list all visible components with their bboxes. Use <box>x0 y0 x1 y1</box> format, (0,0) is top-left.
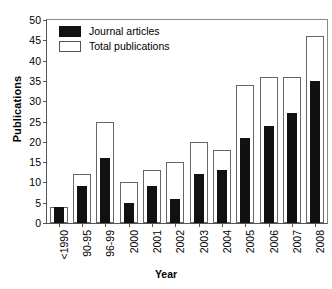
bar-journal-articles <box>147 186 157 223</box>
x-axis-tick-mark <box>175 223 176 227</box>
x-axis-tick-mark <box>152 223 153 227</box>
bar-journal-articles <box>54 207 64 223</box>
y-axis-tick-label: 50 <box>29 15 47 26</box>
y-axis-tick-label: 30 <box>29 96 47 107</box>
x-axis-tick-mark <box>129 223 130 227</box>
bar-journal-articles <box>287 113 297 223</box>
x-axis-tick-label: <1990 <box>59 230 70 260</box>
x-axis-tick-label: 2003 <box>199 230 210 253</box>
chart-legend: Journal articles Total publications <box>59 25 170 52</box>
legend-item-journal-articles: Journal articles <box>59 25 170 37</box>
y-axis-tick-label: 15 <box>29 157 47 168</box>
x-axis-tick-label: 2006 <box>269 230 280 253</box>
y-axis-tick-label: 40 <box>29 55 47 66</box>
publications-bar-chart: Publications Year 05101520253035404550 <… <box>0 0 332 289</box>
bar-group <box>187 20 210 223</box>
bar-group <box>280 20 303 223</box>
y-axis-tick-label: 0 <box>35 218 47 229</box>
y-axis-tick-label: 10 <box>29 177 47 188</box>
y-axis-tick-label: 35 <box>29 76 47 87</box>
bar-group <box>304 20 327 223</box>
bar-journal-articles <box>217 170 227 223</box>
legend-swatch-total-publications <box>59 41 81 52</box>
legend-item-total-publications: Total publications <box>59 40 170 52</box>
x-axis-tick-label: 2008 <box>315 230 326 253</box>
y-axis-tick-label: 25 <box>29 116 47 127</box>
y-axis-tick-label: 20 <box>29 137 47 148</box>
x-axis-tick-label: 2005 <box>245 230 256 253</box>
x-axis-tick-label: 96-99 <box>105 230 116 257</box>
bar-journal-articles <box>77 186 87 223</box>
bar-group <box>210 20 233 223</box>
legend-label-total-publications: Total publications <box>89 40 170 52</box>
bar-journal-articles <box>100 158 110 223</box>
bar-group <box>257 20 280 223</box>
x-axis-tick-mark <box>105 223 106 227</box>
bar-journal-articles <box>170 199 180 223</box>
x-axis-tick-label: 2000 <box>129 230 140 253</box>
x-axis-tick-mark <box>59 223 60 227</box>
bar-journal-articles <box>124 203 134 223</box>
y-axis-tick-label: 45 <box>29 35 47 46</box>
plot-area: 05101520253035404550 <199090-9596-992000… <box>46 19 328 224</box>
legend-label-journal-articles: Journal articles <box>89 25 160 37</box>
legend-swatch-journal-articles <box>59 26 81 37</box>
x-axis-tick-label: 2001 <box>152 230 163 253</box>
x-axis-tick-mark <box>222 223 223 227</box>
x-axis-tick-mark <box>82 223 83 227</box>
bar-journal-articles <box>310 81 320 223</box>
x-axis-tick-mark <box>199 223 200 227</box>
x-axis-tick-label: 90-95 <box>82 230 93 257</box>
bar-journal-articles <box>194 174 204 223</box>
x-axis-tick-mark <box>269 223 270 227</box>
y-axis-title: Publications <box>11 49 23 169</box>
x-axis-tick-label: 2007 <box>292 230 303 253</box>
x-axis-tick-label: 2004 <box>222 230 233 253</box>
x-axis-title: Year <box>0 268 332 280</box>
bar-journal-articles <box>264 126 274 223</box>
y-axis-tick-label: 5 <box>35 197 47 208</box>
bar-group <box>234 20 257 223</box>
x-axis-tick-mark <box>315 223 316 227</box>
x-axis-tick-mark <box>245 223 246 227</box>
x-axis-tick-label: 2002 <box>175 230 186 253</box>
bar-journal-articles <box>240 138 250 223</box>
x-axis-tick-mark <box>292 223 293 227</box>
